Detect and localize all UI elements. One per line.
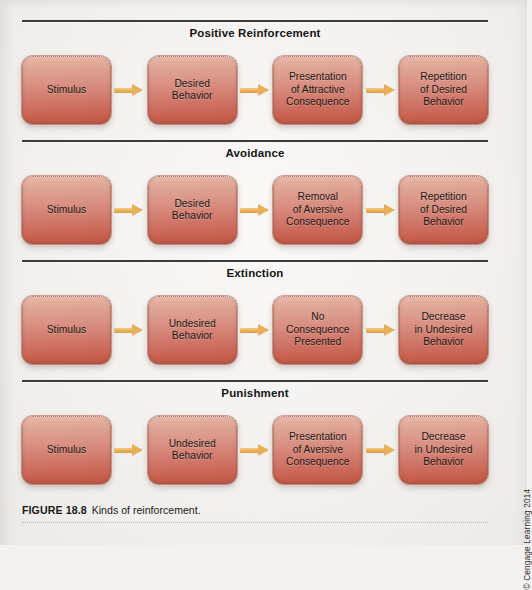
flow-node-outcome[interactable]: Repetition of Desired Behavior xyxy=(399,176,488,244)
flow-node-consequence[interactable]: Presentation of Aversive Consequence xyxy=(273,416,362,484)
flow-node-label: No Consequence Presented xyxy=(283,311,353,348)
figure-caption: FIGURE 18.8Kinds of reinforcement. xyxy=(22,503,488,517)
flow-node-outcome[interactable]: Decrease in Undesired Behavior xyxy=(399,416,488,484)
section-title: Positive Reinforcement xyxy=(22,27,488,40)
flow-node-behavior[interactable]: Undesired Behavior xyxy=(148,296,237,364)
flow-arrow-icon xyxy=(114,204,144,216)
flow-arrow-icon xyxy=(114,84,144,96)
flow-node-label: Stimulus xyxy=(44,204,89,216)
section-rule xyxy=(22,260,488,262)
flow-row-positive-reinforcement: Stimulus Desired Behavior Presentation o… xyxy=(22,54,488,126)
flow-node-label: Desired Behavior xyxy=(169,78,216,103)
flow-arrow-icon xyxy=(114,444,144,456)
flow-row-extinction: Stimulus Undesired Behavior No Consequen… xyxy=(22,294,488,366)
section-title: Extinction xyxy=(22,267,488,280)
flow-node-label: Presentation of Aversive Consequence xyxy=(283,431,353,468)
section-header-avoidance: Avoidance xyxy=(22,140,488,160)
flow-node-stimulus[interactable]: Stimulus xyxy=(22,296,111,364)
caption-divider xyxy=(22,522,488,523)
flow-arrow-icon xyxy=(114,324,144,336)
flow-node-label: Presentation of Attractive Consequence xyxy=(283,71,353,108)
figure-number: FIGURE 18.8 xyxy=(22,504,87,516)
flow-arrow-icon xyxy=(366,204,396,216)
section-rule xyxy=(22,20,488,22)
flow-arrow-icon xyxy=(366,444,396,456)
flow-node-label: Decrease in Undesired Behavior xyxy=(412,311,476,348)
flow-node-label: Removal of Aversive Consequence xyxy=(283,191,353,228)
flow-node-stimulus[interactable]: Stimulus xyxy=(22,416,111,484)
flow-node-stimulus[interactable]: Stimulus xyxy=(22,176,111,244)
flow-node-label: Repetition of Desired Behavior xyxy=(417,191,470,228)
flow-node-label: Undesired Behavior xyxy=(166,438,219,463)
section-header-extinction: Extinction xyxy=(22,260,488,280)
flow-row-punishment: Stimulus Undesired Behavior Presentation… xyxy=(22,414,488,486)
flow-node-consequence[interactable]: Removal of Aversive Consequence xyxy=(273,176,362,244)
flow-arrow-icon xyxy=(240,84,270,96)
section-title: Punishment xyxy=(22,387,488,400)
flow-node-label: Stimulus xyxy=(44,324,89,336)
flow-node-label: Stimulus xyxy=(44,84,89,96)
flow-node-label: Desired Behavior xyxy=(169,198,216,223)
figure-caption-text: Kinds of reinforcement. xyxy=(92,504,201,516)
section-rule xyxy=(22,380,488,382)
flow-node-stimulus[interactable]: Stimulus xyxy=(22,56,111,124)
flow-arrow-icon xyxy=(240,444,270,456)
section-title: Avoidance xyxy=(22,147,488,160)
flow-row-avoidance: Stimulus Desired Behavior Removal of Ave… xyxy=(22,174,488,246)
section-rule xyxy=(22,140,488,142)
flow-arrow-icon xyxy=(366,324,396,336)
section-header-punishment: Punishment xyxy=(22,380,488,400)
flow-node-behavior[interactable]: Undesired Behavior xyxy=(148,416,237,484)
flow-node-behavior[interactable]: Desired Behavior xyxy=(148,176,237,244)
flow-node-consequence[interactable]: No Consequence Presented xyxy=(273,296,362,364)
flow-node-outcome[interactable]: Decrease in Undesired Behavior xyxy=(399,296,488,364)
copyright-credit: © Cengage Learning 2014 xyxy=(523,489,532,590)
flow-node-label: Repetition of Desired Behavior xyxy=(417,71,470,108)
flow-arrow-icon xyxy=(240,204,270,216)
flow-arrow-icon xyxy=(366,84,396,96)
flow-node-label: Undesired Behavior xyxy=(166,318,219,343)
flow-node-outcome[interactable]: Repetition of Desired Behavior xyxy=(399,56,488,124)
flow-node-label: Decrease in Undesired Behavior xyxy=(412,431,476,468)
flow-node-consequence[interactable]: Presentation of Attractive Consequence xyxy=(273,56,362,124)
section-header-positive-reinforcement: Positive Reinforcement xyxy=(22,20,488,40)
flow-arrow-icon xyxy=(240,324,270,336)
flow-node-label: Stimulus xyxy=(44,444,89,456)
flow-node-behavior[interactable]: Desired Behavior xyxy=(148,56,237,124)
